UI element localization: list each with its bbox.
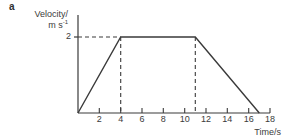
x-axis-tick-label-4: 4	[118, 114, 123, 124]
x-axis-ticks	[99, 108, 270, 113]
x-axis-tick-label-6: 6	[139, 114, 144, 124]
x-axis-tick-label-8: 8	[161, 114, 166, 124]
x-axis-tick-label-10: 10	[180, 114, 190, 124]
velocity-time-line	[78, 37, 259, 113]
velocity-time-graph-figure: a Velocity/ m s-1 2	[0, 0, 283, 140]
x-axis-tick-label-14: 14	[222, 114, 232, 124]
x-axis-tick-label-2: 2	[97, 114, 102, 124]
x-axis-tick-label-18: 18	[265, 114, 275, 124]
x-axis-tick-label-16: 16	[244, 114, 254, 124]
x-axis-tick-label-12: 12	[201, 114, 211, 124]
x-axis-title: Time/s	[254, 127, 281, 137]
